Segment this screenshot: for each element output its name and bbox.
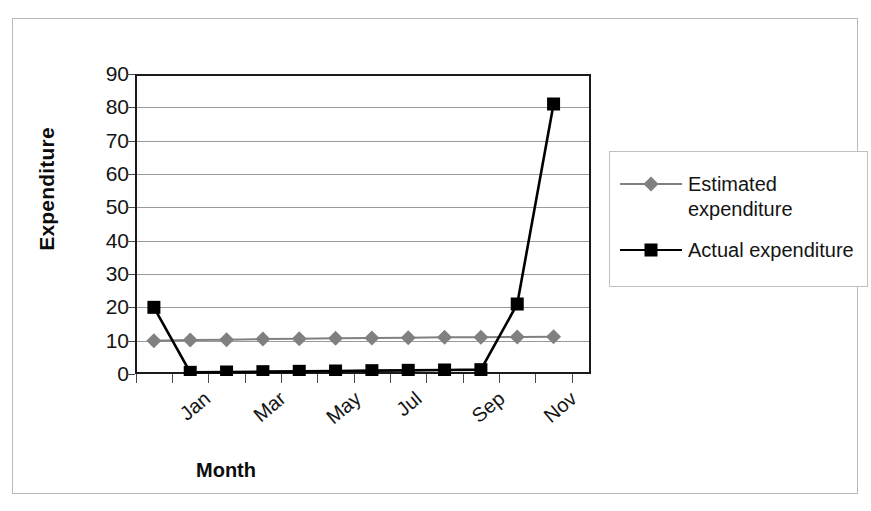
x-axis-title: Month [141, 459, 311, 482]
series-marker [365, 364, 378, 376]
y-axis-tick-mark [127, 107, 135, 108]
series-marker [183, 333, 198, 348]
y-axis-tick-label: 50 [83, 196, 129, 217]
y-axis-tick-mark [127, 341, 135, 342]
series-marker [438, 364, 451, 377]
series-marker [293, 365, 306, 376]
series-marker [329, 365, 342, 377]
x-axis-tick-label: Nov [540, 387, 582, 427]
legend-label: Estimatedexpenditure [688, 172, 868, 222]
y-axis-tick-mark [127, 174, 135, 175]
series-marker [401, 330, 416, 345]
y-axis-tick-mark [127, 241, 135, 242]
series-marker [364, 331, 379, 346]
y-axis-tick-mark [127, 74, 135, 75]
series-marker [328, 331, 343, 346]
y-axis-tick-mark [127, 374, 135, 375]
series-marker [184, 366, 197, 376]
y-axis-tick-label: 40 [83, 230, 129, 251]
series-marker [547, 98, 560, 111]
y-axis-tick-label: 20 [83, 296, 129, 317]
y-axis-tick-mark [127, 307, 135, 308]
series-marker [220, 366, 233, 377]
y-axis-tick-label: 10 [83, 330, 129, 351]
x-axis-tick-label: May [322, 387, 366, 429]
series-marker [255, 332, 270, 347]
series-marker [146, 333, 161, 348]
legend-square-marker-icon [620, 248, 682, 252]
legend-label-line: Actual expenditure [688, 238, 868, 263]
chart-outer-frame: Expenditure 0102030405060708090 JanMarMa… [12, 18, 858, 494]
legend-label-line: Estimated [688, 172, 868, 197]
x-axis-tick-label: Jul [392, 387, 426, 421]
series-marker [473, 330, 488, 345]
series-marker [292, 331, 307, 346]
y-axis-tick-label: 80 [83, 96, 129, 117]
y-axis-tick-label: 90 [83, 63, 129, 84]
y-axis-tick-labels: 0102030405060708090 [75, 74, 129, 374]
y-axis-tick-mark [127, 207, 135, 208]
series-line [154, 337, 554, 341]
legend-label: Actual expenditure [688, 238, 868, 263]
series-marker [147, 301, 160, 314]
series-marker [510, 330, 525, 345]
y-axis-tick-label: 0 [83, 363, 129, 384]
legend-label-line: expenditure [688, 197, 868, 222]
y-axis-tick-mark [127, 141, 135, 142]
y-axis-tick-label: 60 [83, 163, 129, 184]
series-line [154, 104, 554, 372]
chart-legend: EstimatedexpenditureActual expenditure [609, 151, 868, 287]
x-axis-tick-label: Jan [175, 387, 214, 425]
x-axis-tick-label: Mar [249, 387, 290, 427]
y-axis-tick-mark [127, 274, 135, 275]
series-marker [256, 365, 269, 376]
y-axis-tick-label: 70 [83, 130, 129, 151]
legend-diamond-marker-icon [620, 182, 682, 186]
series-marker [437, 330, 452, 345]
chart-figure: Expenditure 0102030405060708090 JanMarMa… [0, 0, 871, 511]
series-marker [511, 298, 524, 311]
series-marker [402, 364, 415, 376]
series-marker [219, 332, 234, 347]
x-axis-tick-label: Sep [467, 387, 509, 427]
y-axis-tick-label: 30 [83, 263, 129, 284]
series-marker [546, 329, 561, 344]
y-axis-title: Expenditure [35, 89, 59, 289]
data-series-layer [135, 74, 593, 376]
series-marker [474, 363, 487, 376]
